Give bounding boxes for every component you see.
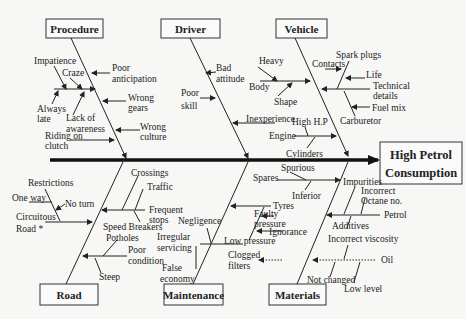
cause-oil: Oil (381, 255, 394, 265)
arrow-craze (70, 78, 82, 89)
cause-poor-anticipation-l2: anticipation (112, 74, 157, 84)
cause-faulty-pressure: Faulty (254, 209, 279, 219)
category-label-maintenance: Maintenance (163, 289, 224, 301)
line-traffic (135, 189, 143, 210)
cause-poor-condition-l2: condition (128, 256, 164, 266)
category-box-road: Road (40, 284, 98, 305)
cause-fuel-mix: Fuel mix (372, 103, 406, 113)
cause-riding-clutch-l2: clutch (45, 141, 68, 151)
line-negligence (207, 228, 211, 243)
cause-steep: Steep (99, 272, 120, 282)
cause-poor-skill-l2: skill (181, 101, 198, 111)
cause-incorrect-viscosity: Incorrect viscosity (328, 234, 399, 244)
line-crossings (122, 176, 138, 210)
cause-wrong-gears: Wrong (128, 93, 154, 103)
line-impurities (344, 187, 355, 214)
cause-shape: Shape (274, 97, 297, 107)
cause-clogged-filters-l2: filters (228, 261, 250, 271)
category-box-driver: Driver (161, 19, 220, 38)
cause-potholes: Potholes (106, 233, 139, 243)
cause-bad-attitude: Bad (216, 63, 232, 73)
cause-incorrect-octane: Incorrect (361, 186, 396, 196)
bone-driver (190, 38, 248, 158)
cause-contacts: Contacts (312, 59, 346, 69)
category-label-road: Road (56, 289, 81, 301)
line-cylinders (307, 137, 315, 148)
category-box-procedure: Procedure (46, 19, 103, 38)
line-inferior (305, 181, 311, 190)
cause-circuitous-road-l2: Road * (16, 224, 43, 234)
cause-cylinders: Cylinders (286, 149, 323, 159)
line-spurious (290, 172, 306, 180)
arrow-bad-attitude (206, 72, 216, 73)
cause-false-economy: False (162, 263, 182, 273)
cause-inferior: Inferior (292, 191, 322, 201)
cause-impatience: Impatience (34, 56, 76, 66)
cause-poor-anticipation: Poor (112, 63, 131, 73)
cause-clogged-filters: Clogged (228, 250, 260, 260)
cause-life: Life (366, 70, 382, 80)
cause-engine: Engine (269, 131, 296, 141)
cause-always-late: Always (37, 104, 66, 114)
cause-irregular-servicing-l2: servicing (157, 243, 192, 253)
cause-negligence: Negligence (178, 216, 221, 226)
cause-restrictions: Restrictions (28, 178, 74, 188)
cause-riding-clutch: Riding on (45, 131, 83, 141)
category-label-procedure: Procedure (50, 23, 99, 35)
category-box-materials: Materials (269, 284, 326, 305)
effect-line-2: Consumption (385, 166, 457, 180)
cause-frequent-stops: Frequent (149, 205, 183, 215)
cause-irregular-servicing: Irregular (157, 232, 191, 242)
category-box-maintenance: Maintenance (163, 284, 224, 305)
cause-traffic: Traffic (147, 182, 173, 192)
line-high-hp (305, 127, 308, 136)
category-label-materials: Materials (275, 289, 321, 301)
cause-crossings: Crossings (131, 168, 169, 178)
arrow-lack-awareness (73, 92, 84, 115)
cause-petrol: Petrol (384, 210, 407, 220)
line-speed-breakers (134, 211, 140, 222)
cause-always-late-l2: late (37, 114, 51, 124)
cause-spares: Spares (253, 173, 279, 183)
cause-circuitous-road: Circuitous (16, 212, 56, 222)
cause-wrong-gears-l2: gears (128, 103, 148, 113)
cause-carburetor: Carburetor (340, 116, 382, 126)
cause-poor-condition: Poor (128, 245, 147, 255)
effect-box: High Petrol Consumption (380, 142, 462, 184)
cause-technical-details: Technical (373, 81, 410, 91)
cause-high-hp: High H.P (292, 117, 328, 127)
fishbone-diagram: High Petrol Consumption Procedure Driver… (0, 0, 466, 319)
cause-bad-attitude-l2: attitude (216, 74, 245, 84)
arrow-no-turn (56, 204, 65, 210)
category-label-vehicle: Vehicle (285, 23, 319, 35)
cause-incorrect-octane-l2: Octane no. (361, 196, 402, 206)
cause-one-way: One way (12, 193, 46, 203)
cause-technical-details-l2: details (373, 91, 398, 101)
cause-spurious: Spurious (281, 163, 315, 173)
cause-poor-skill: Poor (181, 88, 200, 98)
cause-heavy: Heavy (259, 56, 284, 66)
cause-no-turn: No turn (65, 199, 95, 209)
arrow-heavy (258, 67, 277, 81)
category-label-driver: Driver (175, 23, 206, 35)
cause-speed-breakers: Speed Breakers (103, 222, 163, 232)
cause-craze: Craze (62, 68, 84, 78)
cause-low-level: Low level (344, 284, 383, 294)
arrow-shape (278, 83, 292, 96)
line-steep (95, 258, 101, 273)
arrow-always-late (52, 91, 58, 104)
cause-low-pressure: Low pressure (224, 236, 275, 246)
cause-wrong-culture: Wrong (140, 122, 166, 132)
line-carburetor (344, 91, 355, 116)
cause-additives: Additives (332, 221, 369, 231)
effect-line-1: High Petrol (390, 148, 452, 162)
cause-body: Body (249, 82, 270, 92)
cause-lack-awareness: Lack of (66, 113, 96, 123)
cause-inexperience: Inexperience (246, 114, 295, 124)
cause-wrong-culture-l2: culture (140, 132, 166, 142)
line-incorrect-viscosity (344, 245, 348, 259)
category-box-vehicle: Vehicle (276, 19, 327, 38)
cause-false-economy-l2: economy (160, 274, 195, 284)
